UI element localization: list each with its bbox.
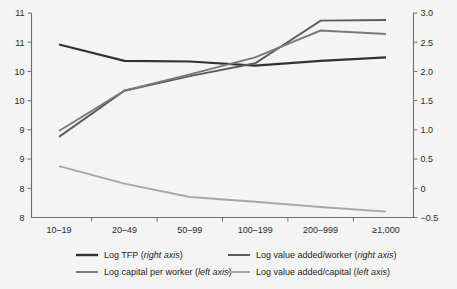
left-tick-label: 8 — [19, 184, 24, 194]
x-tick-label: 20–49 — [112, 225, 137, 235]
legend-label-2: Log capital per worker (left axis) — [104, 267, 232, 277]
x-tick-label: 200–999 — [303, 225, 338, 235]
right-tick-label: 2.5 — [421, 38, 434, 48]
right-tick-label: 2.0 — [421, 67, 434, 77]
right-tick-label: 3.0 — [421, 8, 434, 18]
x-tick-label: 10–19 — [46, 225, 71, 235]
left-tick-label: 11 — [15, 38, 24, 48]
line-chart-figure: 111110109988 3.02.52.01.51.00.50−0.5 10–… — [0, 0, 457, 289]
legend-label-0: Log TFP (right axis) — [104, 250, 183, 260]
x-tick-label: ≥1,000 — [372, 225, 399, 235]
right-tick-label: 1.5 — [421, 96, 434, 106]
left-tick-label: 9 — [19, 125, 24, 135]
x-tick-label: 100–199 — [238, 225, 273, 235]
right-tick-label: 1.0 — [421, 125, 434, 135]
left-tick-label: 10 — [14, 96, 24, 106]
left-tick-label: 11 — [15, 8, 24, 18]
right-tick-label: 0 — [421, 184, 426, 194]
x-tick-label: 50–99 — [177, 225, 202, 235]
right-tick-label: 0.5 — [421, 154, 434, 164]
right-tick-label: −0.5 — [421, 213, 439, 223]
left-tick-label: 10 — [14, 67, 24, 77]
chart-background — [0, 0, 457, 289]
legend-label-3: Log value added/capital (left axis) — [256, 267, 390, 277]
legend-label-1: Log value added/worker (right axis) — [256, 250, 397, 260]
left-tick-label: 9 — [19, 154, 24, 164]
left-tick-label-baseline: 8 — [19, 213, 24, 223]
